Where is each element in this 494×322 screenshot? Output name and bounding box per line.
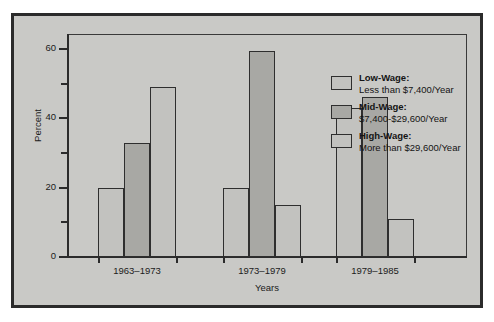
legend-item-low-wage: Low-Wage:Less than $7,400/Year	[331, 73, 476, 99]
bar-low-wage-1963–1973	[98, 188, 124, 257]
legend-description: $7,400-$29,600/Year	[359, 113, 447, 125]
legend-swatch-mid-wage	[331, 105, 352, 119]
bar-mid-wage-1973–1979	[249, 51, 275, 257]
y-tick-label: 20	[28, 182, 56, 192]
x-group-label: 1979–1985	[324, 265, 426, 276]
y-tick-label: 0	[28, 251, 56, 261]
y-tick-label: 60	[28, 43, 56, 53]
chart-figure: 0204060 Percent 1963–19731973–19791979–1…	[11, 13, 483, 308]
legend-swatch-low-wage	[331, 76, 352, 90]
y-tick-label-wrap: 60	[14, 43, 56, 53]
x-group-label: 1973–1979	[211, 265, 313, 276]
legend-description: More than $29,600/Year	[359, 142, 461, 154]
legend-title: Low-Wage:	[359, 72, 454, 84]
y-tick-label-wrap: 20	[14, 182, 56, 192]
x-tick	[414, 256, 416, 263]
bar-high-wage-1973–1979	[275, 205, 301, 257]
x-tick	[223, 256, 225, 263]
x-tick	[176, 256, 178, 263]
bar-mid-wage-1963–1973	[124, 143, 150, 257]
x-tick	[98, 256, 100, 263]
legend-title: High-Wage:	[359, 130, 461, 142]
x-tick	[301, 256, 303, 263]
y-tick-label-wrap: 0	[14, 251, 56, 261]
legend-title: Mid-Wage:	[359, 101, 447, 113]
legend-description: Less than $7,400/Year	[359, 84, 454, 96]
y-axis-title: Percent	[32, 96, 43, 156]
legend-text: Low-Wage:Less than $7,400/Year	[359, 72, 454, 95]
legend-swatch-high-wage	[331, 134, 352, 148]
x-axis-title: Years	[67, 282, 467, 293]
bar-high-wage-1963–1973	[150, 87, 176, 257]
legend-text: Mid-Wage:$7,400-$29,600/Year	[359, 101, 447, 124]
x-tick	[336, 256, 338, 263]
chart-legend: Low-Wage:Less than $7,400/YearMid-Wage:$…	[331, 73, 476, 160]
legend-item-mid-wage: Mid-Wage:$7,400-$29,600/Year	[331, 102, 476, 128]
legend-text: High-Wage:More than $29,600/Year	[359, 130, 461, 153]
legend-item-high-wage: High-Wage:More than $29,600/Year	[331, 131, 476, 157]
x-group-label: 1963–1973	[86, 265, 188, 276]
bar-low-wage-1973–1979	[223, 188, 249, 257]
bar-high-wage-1979–1985	[388, 219, 414, 257]
